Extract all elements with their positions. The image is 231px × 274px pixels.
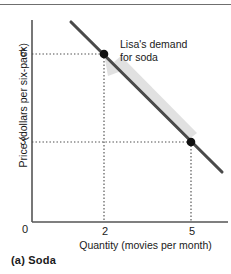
x-axis-title: Quantity (movies per month) <box>60 240 231 251</box>
data-point-5-3 <box>187 138 196 147</box>
demand-curve-annotation: Lisa's demand for soda <box>120 38 224 64</box>
y-axis-title: Price (dollars per six-pack) <box>18 20 29 190</box>
figure-container: 6 3 0 2 5 Price (dollars per six-pack) Q… <box>0 0 231 274</box>
annotation-line-1: Lisa's demand <box>120 38 224 51</box>
panel-caption: (a) Soda <box>11 255 56 266</box>
x-axis-tick-2: 2 <box>97 226 113 237</box>
data-point-2-6 <box>100 50 109 59</box>
x-axis-tick-5: 5 <box>184 226 200 237</box>
annotation-line-2: for soda <box>120 51 224 64</box>
axis-origin-label: 0 <box>14 224 28 235</box>
